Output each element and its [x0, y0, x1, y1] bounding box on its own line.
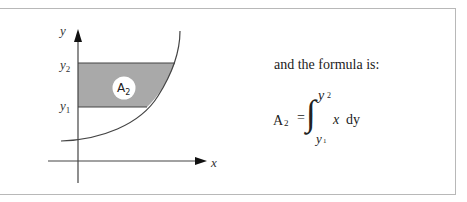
integral-sign: ∫: [306, 92, 316, 134]
upper-limit: y: [318, 88, 324, 104]
lower-limit: y: [316, 131, 322, 147]
formula-lhs-subscript: 2: [284, 118, 289, 128]
formula-equals: =: [297, 110, 305, 126]
upper-limit-subscript: 2: [327, 91, 331, 100]
lower-limit-subscript: 1: [323, 137, 327, 145]
formula-lhs: A: [273, 113, 283, 129]
differential: dy: [346, 112, 360, 128]
integral-formula: A 2 = ∫ y 2 y 1 x dy: [0, 0, 467, 202]
integrand: x: [333, 112, 339, 128]
